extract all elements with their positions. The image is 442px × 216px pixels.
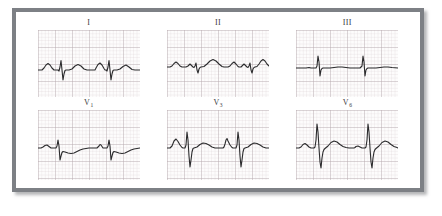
lead-panel-V6: V6 [283, 98, 412, 180]
lead-label-V1: V1 [84, 98, 93, 109]
ecg-grid-I [38, 30, 140, 97]
lead-label-III: III [343, 18, 352, 29]
lead-label-V6-subscript: 6 [349, 102, 352, 108]
ecg-strip-V6 [296, 110, 398, 180]
lead-panel-II: II [153, 18, 282, 98]
ecg-strip-III-svg [296, 30, 398, 97]
lead-label-I: I [87, 18, 90, 29]
ecg-panel-grid: I [16, 12, 420, 188]
lead-panel-V3: V3 [153, 98, 282, 180]
ecg-grid-III [296, 30, 398, 97]
ecg-grid-V3 [167, 110, 269, 180]
lead-label-V6: V6 [343, 98, 352, 109]
ecg-grid-V6 [296, 110, 398, 180]
ecg-strip-I [38, 30, 140, 97]
lead-label-V3-subscript: 3 [220, 102, 223, 108]
lead-label-V1-subscript: 1 [90, 102, 93, 108]
lead-label-II-text: II [215, 18, 221, 27]
lead-panel-I: I [24, 18, 153, 98]
ecg-strip-V1-svg [38, 110, 140, 180]
ecg-strip-V6-svg [296, 110, 398, 180]
ecg-strip-II-svg [167, 30, 269, 97]
ecg-grid-V1 [38, 110, 140, 180]
lead-label-III-text: III [343, 18, 352, 27]
ecg-strip-III [296, 30, 398, 97]
lead-label-V3: V3 [213, 98, 222, 109]
ecg-strip-V1 [38, 110, 140, 180]
ecg-strip-V3 [167, 110, 269, 180]
lead-label-V6-text: V [343, 98, 349, 107]
lead-label-V3-text: V [213, 98, 219, 107]
lead-label-II: II [215, 18, 221, 29]
lead-panel-V1: V1 [24, 98, 153, 180]
ecg-strip-V3-svg [167, 110, 269, 180]
ecg-figure: I [0, 0, 442, 216]
ecg-frame-box: I [12, 8, 424, 192]
ecg-strip-II [167, 30, 269, 97]
lead-label-I-text: I [87, 18, 90, 27]
lead-panel-III: III [283, 18, 412, 98]
ecg-strip-I-svg [38, 30, 140, 97]
